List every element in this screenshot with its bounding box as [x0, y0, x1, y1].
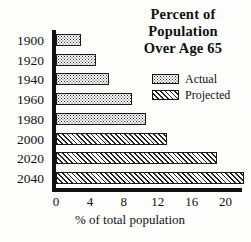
y-tick-label-1940: 1940	[17, 73, 44, 87]
bar-1980	[56, 113, 146, 125]
chart-title-line-1: Percent of	[118, 6, 248, 23]
y-tick-label-1920: 1920	[17, 54, 44, 68]
x-tick-label-0: 0	[53, 195, 60, 208]
bar-fill-actual	[56, 54, 96, 66]
x-tick-label-20: 20	[219, 195, 232, 208]
y-tick-label-2040: 2040	[17, 172, 44, 186]
bar-series-group	[56, 30, 251, 188]
bar-1920	[56, 54, 96, 66]
bar-fill-actual	[56, 34, 81, 46]
y-tick-label-2000: 2000	[17, 133, 44, 147]
y-tick-label-1900: 1900	[17, 34, 44, 48]
x-tick-label-8: 8	[121, 195, 128, 208]
bar-2020	[56, 152, 217, 164]
bar-fill-actual	[56, 113, 146, 125]
bar-2040	[56, 172, 244, 184]
x-tick-label-4: 4	[87, 195, 94, 208]
chart-container: Percent of Population Over Age 65 Actual…	[0, 0, 251, 242]
bar-fill-projected	[56, 152, 217, 164]
bar-fill-actual	[56, 93, 132, 105]
y-tick-label-2020: 2020	[17, 152, 44, 166]
x-axis-title: % of total population	[40, 212, 220, 228]
bar-2000	[56, 133, 167, 145]
x-tick-label-12: 12	[151, 195, 164, 208]
bar-1960	[56, 93, 132, 105]
bar-1900	[56, 34, 81, 46]
bar-fill-projected	[56, 172, 244, 184]
y-tick-label-1980: 1980	[17, 113, 44, 127]
bar-1940	[56, 73, 109, 85]
plot-area	[52, 30, 251, 192]
x-axis-tick-labels: 048121620	[52, 195, 251, 211]
bar-fill-actual	[56, 73, 109, 85]
x-tick-label-16: 16	[185, 195, 198, 208]
x-axis-line	[52, 188, 242, 192]
y-tick-label-1960: 1960	[17, 93, 44, 107]
y-axis-tick-labels: 19001920194019601980200020202040	[0, 30, 48, 188]
bar-fill-projected	[56, 133, 167, 145]
